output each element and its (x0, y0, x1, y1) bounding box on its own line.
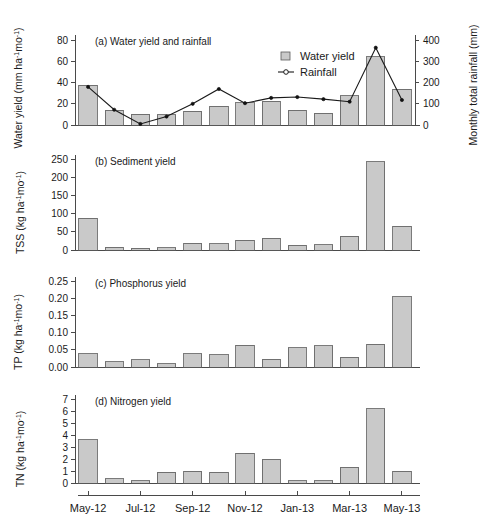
y-tick-label: 50 (57, 226, 69, 237)
panel-d-title: (d) Nitrogen yield (95, 396, 171, 407)
sediment-yield-bar (367, 162, 385, 250)
y-tick-label: 5 (62, 418, 68, 429)
water-yield-bar (236, 103, 254, 125)
sediment-yield-bar (393, 226, 411, 250)
y-tick-label: 40 (57, 77, 69, 88)
y-tick-label: 20 (57, 98, 69, 109)
rainfall-point (139, 122, 142, 125)
legend: Water yieldRainfall (278, 50, 355, 78)
water-yield-bar (288, 110, 306, 125)
y-tick-label: 0 (62, 245, 68, 256)
y-tick-label: 7 (62, 394, 68, 405)
x-tick-label: Sep-12 (175, 502, 210, 514)
nitrogen-yield-bar (210, 472, 228, 483)
y-tick-label: 0 (423, 120, 429, 131)
y-tick-label: 3 (62, 442, 68, 453)
x-tick-label: Jul-12 (125, 502, 155, 514)
phosphorus-yield-bar (262, 359, 280, 367)
rainfall-point (270, 96, 273, 99)
nitrogen-yield-bar (314, 481, 332, 483)
phosphorus-yield-bar (288, 348, 306, 367)
water-yield-bar (367, 57, 385, 125)
panel-c: 0.000.050.100.150.200.25(c) Phosphorus y… (12, 276, 420, 373)
x-axis: May-12Jul-12Sep-12Nov-12Jan-13Mar-13May-… (70, 491, 421, 514)
phosphorus-yield-bar (131, 360, 149, 367)
panel-d-ylabel: TN (kg ha-1mo-1) (14, 411, 26, 488)
panel-b: 050100150200250(b) Sediment yieldTSS (kg… (14, 154, 420, 256)
phosphorus-yield-bar (393, 297, 411, 367)
nitrogen-yield-bar (340, 467, 358, 483)
sediment-yield-bar (210, 244, 228, 250)
y-tick-label: 60 (57, 56, 69, 67)
y-tick-label: 1 (62, 466, 68, 477)
y-tick-label: 300 (423, 56, 440, 67)
panel-b-ylabel: TSS (kg ha-1mo-1) (14, 171, 26, 254)
y-tick-label: 0.15 (49, 310, 69, 321)
sediment-yield-bar (340, 236, 358, 250)
y-tick-label: 4 (62, 430, 68, 441)
y-tick-label: 80 (57, 35, 69, 46)
y-tick-label: 0.25 (49, 276, 69, 287)
panel-a-title: (a) Water yield and rainfall (95, 36, 211, 47)
rainfall-point (243, 102, 246, 105)
rainfall-point (86, 85, 89, 88)
phosphorus-yield-bar (79, 354, 97, 367)
legend-rainfall-label: Rainfall (300, 66, 337, 78)
sediment-yield-bar (157, 248, 175, 250)
phosphorus-yield-bar (236, 345, 254, 367)
rainfall-point (322, 98, 325, 101)
y-tick-label: 250 (51, 154, 68, 165)
x-tick-label: May-13 (384, 502, 421, 514)
y-tick-label: 2 (62, 454, 68, 465)
nitrogen-yield-bar (236, 453, 254, 483)
nitrogen-yield-bar (157, 472, 175, 483)
rainfall-point (113, 108, 116, 111)
water-yield-bar (393, 89, 411, 125)
sediment-yield-bar (131, 248, 149, 250)
nitrogen-yield-bar (367, 409, 385, 483)
water-yield-bar (79, 85, 97, 125)
rainfall-point (217, 87, 220, 90)
nitrogen-yield-bar (262, 459, 280, 483)
panel-a-ylabel: Water yield (mm ha-1mo-1) (12, 27, 24, 148)
y-tick-label: 200 (423, 77, 440, 88)
sediment-yield-bar (79, 218, 97, 250)
y-tick-label: 150 (51, 190, 68, 201)
water-yield-bar (184, 111, 202, 125)
x-tick-label: Nov-12 (227, 502, 262, 514)
nitrogen-yield-bar (184, 471, 202, 483)
panel-d: 01234567(d) Nitrogen yieldTN (kg ha-1mo-… (14, 394, 420, 489)
y-tick-label: 0 (62, 478, 68, 489)
legend-rainfall-marker (284, 70, 289, 75)
rainfall-point (165, 115, 168, 118)
y-tick-label: 100 (423, 98, 440, 109)
water-yield-bar (210, 106, 228, 125)
phosphorus-yield-bar (184, 354, 202, 367)
legend-water-yield-swatch (281, 52, 290, 60)
sediment-yield-bar (105, 247, 123, 250)
y-tick-label: 0.20 (49, 293, 69, 304)
rainfall-point (400, 98, 403, 101)
y-tick-label: 400 (423, 35, 440, 46)
legend-water-yield-label: Water yield (300, 50, 355, 62)
panel-c-title: (c) Phosphorus yield (95, 278, 186, 289)
nitrogen-yield-bar (131, 481, 149, 483)
y-tick-label: 6 (62, 406, 68, 417)
phosphorus-yield-bar (105, 362, 123, 367)
x-tick-label: May-12 (70, 502, 107, 514)
x-tick-label: Mar-13 (332, 502, 367, 514)
rainfall-point (348, 100, 351, 103)
nitrogen-yield-bar (288, 481, 306, 483)
panel-a-y2label: Monthly total rainfall (mm) (467, 25, 479, 146)
multi-panel-chart: 0204060800100200300400(a) Water yield an… (0, 0, 491, 530)
y-tick-label: 0.10 (49, 327, 69, 338)
phosphorus-yield-bar (367, 344, 385, 367)
sediment-yield-bar (236, 240, 254, 250)
y-tick-label: 0.00 (49, 362, 69, 373)
nitrogen-yield-bar (393, 471, 411, 483)
panel-a: 0204060800100200300400(a) Water yield an… (12, 25, 479, 149)
y-tick-label: 0 (62, 120, 68, 131)
sediment-yield-bar (314, 245, 332, 250)
y-tick-label: 200 (51, 172, 68, 183)
rainfall-point (374, 46, 377, 49)
